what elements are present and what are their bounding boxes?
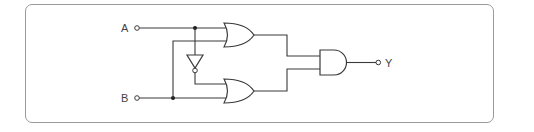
or-gate-lower	[224, 79, 254, 103]
wire-b-to-or1	[173, 41, 227, 98]
not-gate-bubble	[193, 68, 198, 73]
input-a-terminal	[135, 26, 140, 31]
or-gate-upper	[224, 23, 254, 47]
input-b-label: B	[121, 92, 128, 104]
wire-or2-to-and	[254, 69, 321, 91]
wire-or1-to-and	[254, 35, 321, 56]
and-gate	[320, 50, 347, 75]
wire-not-to-or2	[195, 73, 227, 84]
output-y-terminal	[376, 60, 381, 65]
input-a-label: A	[121, 22, 129, 34]
logic-circuit: A B Y	[0, 0, 534, 132]
not-gate	[187, 55, 203, 68]
output-y-label: Y	[385, 57, 393, 69]
input-b-terminal	[135, 96, 140, 101]
